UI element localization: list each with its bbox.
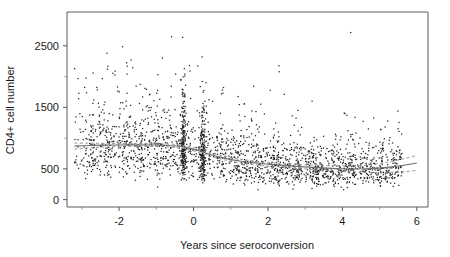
data-point bbox=[130, 141, 131, 142]
data-point bbox=[346, 144, 347, 145]
data-point bbox=[299, 176, 300, 177]
data-point bbox=[147, 147, 148, 148]
data-point bbox=[180, 128, 181, 129]
data-point bbox=[312, 157, 313, 158]
data-point bbox=[392, 163, 393, 164]
data-point bbox=[378, 150, 379, 151]
data-point bbox=[355, 117, 356, 118]
data-point bbox=[102, 109, 103, 110]
data-point bbox=[246, 150, 247, 151]
data-point bbox=[103, 128, 104, 129]
data-point bbox=[367, 154, 368, 155]
data-point bbox=[331, 153, 332, 154]
data-point bbox=[169, 169, 170, 170]
data-point bbox=[255, 151, 256, 152]
data-point bbox=[184, 75, 185, 76]
data-point bbox=[313, 153, 314, 154]
data-point bbox=[159, 99, 160, 100]
data-point bbox=[333, 162, 334, 163]
data-point bbox=[299, 151, 300, 152]
data-point bbox=[310, 175, 311, 176]
data-point bbox=[215, 150, 216, 151]
data-point bbox=[184, 132, 185, 133]
data-point bbox=[136, 140, 137, 141]
data-point bbox=[400, 154, 401, 155]
data-point bbox=[88, 155, 89, 156]
data-point bbox=[287, 159, 288, 160]
data-point bbox=[350, 162, 351, 163]
data-point bbox=[340, 149, 341, 150]
data-point bbox=[221, 148, 222, 149]
data-point bbox=[263, 174, 264, 175]
data-point bbox=[257, 168, 258, 169]
data-point bbox=[202, 142, 203, 143]
data-point bbox=[392, 153, 393, 154]
data-point bbox=[387, 159, 388, 160]
data-point bbox=[162, 133, 163, 134]
data-point bbox=[399, 152, 400, 153]
data-point bbox=[234, 142, 235, 143]
data-point bbox=[331, 159, 332, 160]
data-point bbox=[380, 148, 381, 149]
data-point bbox=[366, 142, 367, 143]
data-point bbox=[205, 149, 206, 150]
data-point bbox=[142, 138, 143, 139]
data-point bbox=[157, 119, 158, 120]
data-point bbox=[165, 156, 166, 157]
data-point bbox=[245, 168, 246, 169]
data-point bbox=[242, 167, 243, 168]
data-point bbox=[191, 161, 192, 162]
data-point bbox=[221, 93, 222, 94]
data-point bbox=[392, 176, 393, 177]
data-point bbox=[173, 152, 174, 153]
data-point bbox=[135, 180, 136, 181]
data-point bbox=[108, 132, 109, 133]
data-point bbox=[186, 179, 187, 180]
data-point bbox=[92, 128, 93, 129]
data-point bbox=[170, 165, 171, 166]
data-point bbox=[332, 174, 333, 175]
data-point bbox=[127, 161, 128, 162]
scatter-plot: -20246 050015002500 Years since seroconv… bbox=[0, 0, 450, 257]
data-point bbox=[75, 159, 76, 160]
data-point bbox=[351, 160, 352, 161]
data-point bbox=[398, 185, 399, 186]
data-point bbox=[122, 155, 123, 156]
data-point bbox=[138, 149, 139, 150]
data-point bbox=[108, 156, 109, 157]
data-point bbox=[181, 157, 182, 158]
data-point bbox=[92, 114, 93, 115]
data-point bbox=[95, 131, 96, 132]
data-point bbox=[80, 132, 81, 133]
data-point bbox=[269, 172, 270, 173]
data-point bbox=[380, 185, 381, 186]
data-point bbox=[102, 78, 103, 79]
data-point bbox=[318, 171, 319, 172]
data-point bbox=[361, 157, 362, 158]
data-point bbox=[170, 125, 171, 126]
data-point bbox=[378, 180, 379, 181]
data-point bbox=[355, 175, 356, 176]
data-point bbox=[182, 76, 183, 77]
data-point bbox=[128, 134, 129, 135]
data-point bbox=[178, 139, 179, 140]
data-point bbox=[229, 163, 230, 164]
data-point bbox=[332, 145, 333, 146]
data-point bbox=[292, 188, 293, 189]
data-point bbox=[360, 156, 361, 157]
data-point bbox=[217, 149, 218, 150]
data-point bbox=[381, 180, 382, 181]
data-point bbox=[219, 144, 220, 145]
data-point bbox=[237, 157, 238, 158]
data-point bbox=[105, 154, 106, 155]
data-point bbox=[381, 157, 382, 158]
data-point bbox=[207, 143, 208, 144]
data-point bbox=[353, 154, 354, 155]
data-point bbox=[194, 160, 195, 161]
data-point bbox=[181, 121, 182, 122]
data-point bbox=[206, 136, 207, 137]
data-point bbox=[241, 171, 242, 172]
data-point bbox=[157, 74, 158, 75]
data-point bbox=[282, 150, 283, 151]
data-point bbox=[100, 132, 101, 133]
